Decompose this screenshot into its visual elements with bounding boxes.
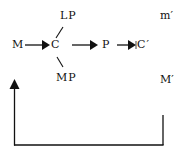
node-p: P [102, 39, 110, 51]
node-m: M [12, 39, 24, 51]
arrow-p-to-c-prime [117, 40, 136, 50]
arrow-m-to-c [25, 40, 50, 50]
diagram-connectors [0, 0, 180, 157]
line-c-to-lp [56, 27, 63, 38]
node-c: C [51, 39, 60, 51]
node-m-prime-lower: m′ [160, 10, 173, 22]
line-c-to-mp [57, 57, 63, 67]
node-mp: MP [56, 72, 77, 84]
node-m-prime-upper: M′ [160, 74, 174, 86]
node-lp: LP [60, 10, 77, 22]
arrow-c-to-p [72, 40, 98, 50]
diagram-canvas: M C LP MP P C′ m′ M′ [0, 0, 180, 157]
node-c-prime: C′ [137, 39, 150, 51]
feedback-loop-arrow [10, 79, 164, 146]
